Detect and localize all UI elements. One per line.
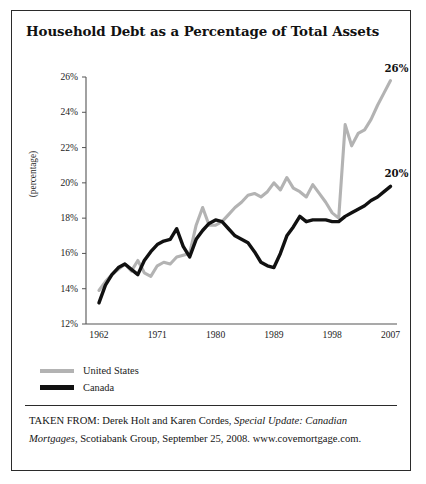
source-title-part1: Special Update:	[234, 415, 303, 426]
y-tick-marks	[82, 77, 86, 324]
x-tick-label: 2007	[368, 329, 414, 340]
source-suffix: , Scotiabank Group, September 25, 2008.	[75, 433, 250, 444]
series-layer	[99, 81, 391, 303]
legend-item-canada: Canada	[40, 380, 290, 395]
x-tick-label: 1989	[251, 329, 297, 340]
endpoint-label-united-states: 26%	[385, 62, 409, 74]
legend-item-united-states: United States	[40, 363, 290, 378]
endpoint-label-canada: 20%	[385, 167, 409, 179]
page-title: Household Debt as a Percentage of Total …	[26, 23, 396, 39]
figure-frame: Household Debt as a Percentage of Total …	[11, 10, 411, 471]
source-divider	[25, 405, 397, 406]
chart-plot-area: (percentage) 26%24%22%20%18%16%14%12% 19…	[12, 51, 410, 341]
series-line-united-states	[99, 81, 391, 291]
y-tick-label: 26%	[44, 71, 78, 82]
chart-legend: United States Canada	[40, 363, 290, 397]
legend-swatch-canada	[40, 385, 74, 390]
source-note: TAKEN FROM: Derek Holt and Karen Cordes,…	[29, 412, 395, 447]
legend-swatch-united-states	[40, 369, 74, 373]
y-tick-label: 16%	[44, 247, 78, 258]
y-axis-title: (percentage)	[28, 134, 38, 214]
y-tick-label: 12%	[44, 318, 78, 329]
x-tick-label: 1998	[309, 329, 355, 340]
x-tick-label: 1962	[76, 329, 122, 340]
x-tick-label: 1980	[193, 329, 239, 340]
legend-label-canada: Canada	[83, 382, 114, 393]
x-tick-label: 1971	[134, 329, 180, 340]
y-tick-label: 18%	[44, 212, 78, 223]
y-tick-label: 24%	[44, 106, 78, 117]
y-tick-label: 22%	[44, 142, 78, 153]
legend-label-united-states: United States	[83, 365, 139, 376]
line-chart	[12, 51, 410, 341]
source-url: www.covemortgage.com.	[253, 433, 361, 444]
y-tick-label: 20%	[44, 177, 78, 188]
series-line-canada	[99, 186, 391, 302]
source-prefix: TAKEN FROM: Derek Holt and Karen Cordes,	[29, 415, 234, 426]
y-tick-label: 14%	[44, 283, 78, 294]
